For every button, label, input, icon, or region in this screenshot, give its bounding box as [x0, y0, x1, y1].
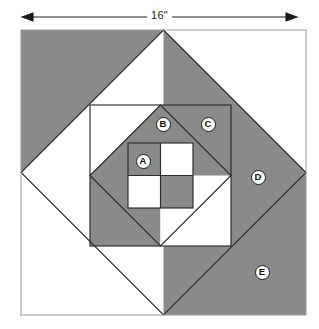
patch-label-d-text: D: [255, 172, 262, 182]
four-patch-cell-bottom-left: [128, 176, 161, 209]
patch-label-c-text: C: [205, 119, 212, 129]
block-drawing: [0, 0, 319, 329]
patch-label-a: A: [136, 154, 151, 169]
quilt-block-figure: 16": [0, 0, 319, 329]
four-patch-cell-top-right: [161, 143, 194, 176]
patch-label-e-text: E: [259, 267, 265, 277]
patch-label-b-text: B: [160, 119, 167, 129]
patch-label-e: E: [255, 265, 270, 280]
patch-label-d: D: [251, 170, 266, 185]
patch-label-c: C: [201, 117, 216, 132]
four-patch-cell-bottom-right: [161, 176, 194, 209]
patch-label-b: B: [156, 117, 171, 132]
patch-label-a-text: A: [140, 156, 147, 166]
